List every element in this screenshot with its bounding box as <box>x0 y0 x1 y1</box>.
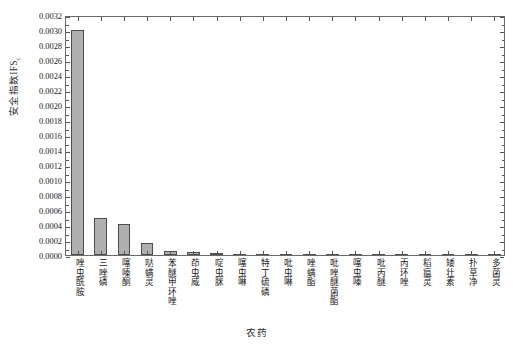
y-axis-minor-tick-mark <box>66 100 69 101</box>
x-axis-tick-mark <box>240 251 241 255</box>
y-axis-tick-mark <box>500 77 504 78</box>
y-axis-minor-tick-mark <box>502 55 505 56</box>
y-axis-minor-tick-mark <box>66 220 69 221</box>
x-axis-tick-mark <box>240 17 241 21</box>
x-axis-tick-mark <box>217 251 218 255</box>
y-axis-minor-tick-mark <box>502 100 505 101</box>
y-axis-minor-tick-mark <box>66 250 69 251</box>
y-axis-tick-label: 0.0014 <box>39 147 62 156</box>
y-axis-minor-tick-mark <box>66 55 69 56</box>
y-axis-tick-labels: 0.00320.00300.00280.00260.00240.00220.00… <box>18 12 62 256</box>
y-axis-tick-label: 0.0028 <box>39 42 62 51</box>
y-axis-tick-mark <box>500 47 504 48</box>
x-axis-tick-mark <box>379 251 380 255</box>
y-axis-tick-mark <box>66 122 70 123</box>
y-axis-minor-tick-mark <box>502 85 505 86</box>
x-axis-tick-label: 唑虫酰胺 <box>71 258 83 296</box>
x-axis-tick-label: 吡虫啉 <box>279 258 291 287</box>
y-axis-minor-tick-mark <box>66 205 69 206</box>
x-axis-tick-mark <box>286 251 287 255</box>
y-axis-tick-mark <box>500 17 504 18</box>
x-axis-tick-mark <box>309 17 310 21</box>
y-axis-tick-mark <box>66 212 70 213</box>
y-axis-minor-tick-mark <box>502 160 505 161</box>
x-axis-tick-label: 苯醚甲环唑 <box>163 258 175 306</box>
x-axis-tick-mark <box>355 17 356 21</box>
x-axis-tick-mark <box>147 17 148 21</box>
y-axis-tick-mark <box>66 197 70 198</box>
x-axis-tick-mark <box>263 251 264 255</box>
x-axis-tick-label: 特丁硫磷 <box>256 258 268 296</box>
x-axis-tick-mark <box>78 17 79 21</box>
x-axis-tick-mark <box>147 251 148 255</box>
x-axis-tick-mark <box>448 251 449 255</box>
x-axis-tick-mark <box>78 251 79 255</box>
y-axis-minor-tick-mark <box>502 205 505 206</box>
x-axis-tick-mark <box>355 251 356 255</box>
y-axis-tick-mark <box>66 137 70 138</box>
y-axis-minor-tick-mark <box>502 115 505 116</box>
x-axis-tick-mark <box>494 251 495 255</box>
y-axis-tick-label: 0.0004 <box>39 222 62 231</box>
x-axis-tick-mark <box>193 251 194 255</box>
x-axis-tick-mark <box>309 251 310 255</box>
y-axis-tick-mark <box>66 77 70 78</box>
y-axis-tick-mark <box>500 197 504 198</box>
y-axis-tick-mark <box>500 182 504 183</box>
x-axis-tick-mark <box>124 251 125 255</box>
x-axis-tick-label: 茚虫威 <box>186 258 198 287</box>
y-axis-tick-mark <box>66 242 70 243</box>
x-axis-tick-mark <box>332 251 333 255</box>
x-axis-tick-label: 哒螨灵 <box>140 258 152 287</box>
y-axis-minor-tick-mark <box>502 250 505 251</box>
x-axis-tick-mark <box>193 17 194 21</box>
y-axis-tick-mark <box>66 182 70 183</box>
y-axis-tick-mark <box>66 17 70 18</box>
y-axis-tick-label: 0.0016 <box>39 132 62 141</box>
x-axis-tick-label: 矮壮素 <box>441 258 453 287</box>
y-axis-minor-tick-mark <box>66 115 69 116</box>
y-axis-minor-tick-mark <box>502 175 505 176</box>
bar <box>94 218 107 255</box>
y-axis-minor-tick-mark <box>502 40 505 41</box>
x-axis-tick-mark <box>402 251 403 255</box>
x-axis-tick-mark <box>170 17 171 21</box>
y-axis-tick-label: 0.0018 <box>39 117 62 126</box>
y-axis-tick-mark <box>66 92 70 93</box>
y-axis-tick-label: 0.0022 <box>39 87 62 96</box>
y-axis-minor-tick-mark <box>502 70 505 71</box>
y-axis-tick-label: 0.0010 <box>39 177 62 186</box>
bars-layer <box>66 17 504 255</box>
x-axis-tick-label: 啶虫脒 <box>210 258 222 287</box>
y-axis-minor-tick-mark <box>66 130 69 131</box>
x-axis-tick-label: 扑草净 <box>464 258 476 287</box>
y-axis-tick-mark <box>500 212 504 213</box>
x-axis-tick-mark <box>263 17 264 21</box>
x-axis-tick-mark <box>124 17 125 21</box>
y-axis-minor-tick-mark <box>66 145 69 146</box>
x-axis-tick-mark <box>101 251 102 255</box>
x-axis-tick-mark <box>170 251 171 255</box>
y-axis-tick-mark <box>500 122 504 123</box>
x-axis-tick-mark <box>425 17 426 21</box>
y-axis-tick-label: 0.0006 <box>39 207 62 216</box>
y-axis-tick-mark <box>66 152 70 153</box>
bar <box>71 30 84 255</box>
plot-area <box>65 16 505 256</box>
y-axis-tick-label: 0.0000 <box>39 252 62 261</box>
x-axis-tick-mark <box>425 251 426 255</box>
y-axis-tick-mark <box>500 107 504 108</box>
y-axis-minor-tick-mark <box>502 130 505 131</box>
x-axis-tick-mark <box>471 17 472 21</box>
y-axis-tick-mark <box>500 92 504 93</box>
x-axis-tick-label: 噻嗪酮 <box>117 258 129 287</box>
x-axis-tick-label: 丙环唑 <box>395 258 407 287</box>
y-axis-tick-label: 0.0020 <box>39 102 62 111</box>
y-axis-tick-mark <box>500 32 504 33</box>
x-axis-tick-labels: 唑虫酰胺三唑磷噻嗪酮哒螨灵苯醚甲环唑茚虫威啶虫脒噻虫啉特丁硫磷吡虫啉唑螨酯吡唑醚… <box>65 258 505 324</box>
bar-chart: 安全指数IFSc 0.00320.00300.00280.00260.00240… <box>0 0 513 346</box>
y-axis-minor-tick-mark <box>66 25 69 26</box>
x-axis-tick-label: 噻虫嗪 <box>348 258 360 287</box>
y-axis-minor-tick-mark <box>502 145 505 146</box>
y-axis-minor-tick-mark <box>66 40 69 41</box>
